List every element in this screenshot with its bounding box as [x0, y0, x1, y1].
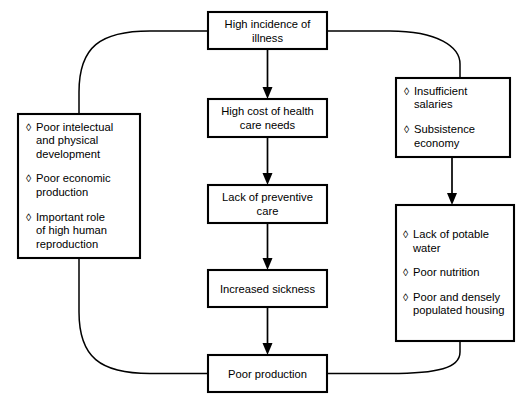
node-box-illness[interactable] [208, 12, 327, 49]
connector-development-to-production [79, 258, 208, 374]
node-box-preventive-care[interactable] [208, 185, 327, 223]
node-box-living-conditions[interactable] [396, 205, 514, 341]
arrowhead-living-conditions [447, 193, 457, 205]
connector-living-to-production [327, 341, 460, 374]
flowchart-connectors [0, 0, 527, 401]
flowchart-diagram: High incidence of illness High cost of h… [0, 0, 527, 401]
arrowhead-health-cost [263, 87, 273, 99]
node-box-development[interactable] [18, 114, 140, 258]
connector-illness-to-income [327, 31, 460, 78]
connector-illness-to-development [79, 31, 208, 114]
node-box-increased-sickness[interactable] [208, 270, 327, 307]
arrowhead-increased-sickness [263, 258, 273, 270]
node-box-health-cost[interactable] [208, 99, 327, 137]
arrowhead-preventive-care [263, 173, 273, 185]
node-box-income[interactable] [396, 78, 510, 157]
arrowhead-poor-production [263, 343, 273, 355]
node-box-poor-production[interactable] [208, 355, 327, 392]
